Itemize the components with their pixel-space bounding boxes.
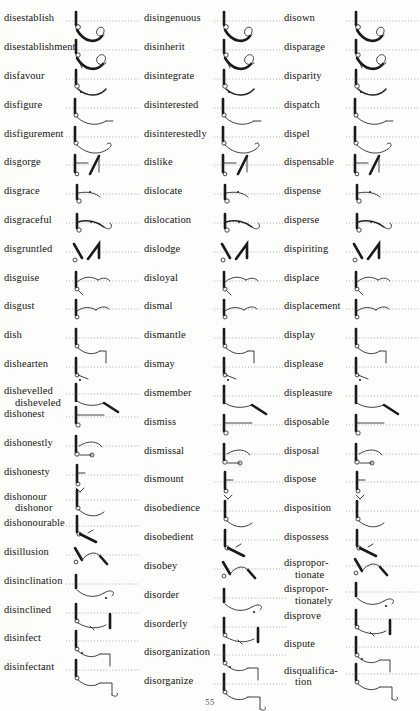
entry-headword: dispel [284, 128, 310, 140]
entry-headword: dispute [284, 638, 315, 650]
entry-headword: disperse [284, 214, 319, 226]
entry-headword: disinclination [4, 575, 63, 587]
entry-headword: dishonesty [4, 466, 50, 478]
entry-alternate-spelling: tionate [284, 569, 329, 581]
entry-headword: disqualifica-tion [284, 665, 338, 688]
entry-headword: dispensable [284, 156, 334, 168]
entry-headword: disloyal [144, 272, 178, 284]
entry-headword: dispense [284, 185, 321, 197]
entry-headword: dismount [144, 473, 184, 485]
entry-headword: dishonestly [4, 437, 53, 449]
entry-alternate-spelling: dishonor [4, 502, 53, 514]
entry-headword: dismiss [144, 416, 176, 428]
entry-alternate-spelling: disheveled [4, 397, 61, 409]
entry-headword: dismay [144, 358, 175, 370]
entry-headword: dislodge [144, 243, 180, 255]
entry-headword: disobedient [144, 531, 194, 543]
entry-headword: displeasure [284, 387, 332, 399]
entry-column-1: disestablishdisestablishmentdisfavourdis… [0, 0, 140, 690]
entry-headword: dispropor-tionately [284, 583, 333, 606]
dictionary-page: disestablishdisestablishmentdisfavourdis… [0, 0, 420, 711]
entry-headword: disguise [4, 272, 39, 284]
entry-headword: disillusion [4, 546, 49, 558]
entry-headword: disinterested [144, 99, 198, 111]
entry-headword: disinfect [4, 632, 41, 644]
entry-headword: disobey [144, 560, 177, 572]
entry-headword: disinclined [4, 604, 51, 616]
shorthand-outline [66, 657, 138, 693]
entry-headword: dispossess [284, 531, 329, 543]
entry-headword: dislocate [144, 185, 182, 197]
entry-headword: disgruntled [4, 243, 52, 255]
entry-headword: dishevelleddisheveled [4, 385, 61, 408]
entry-headword: display [284, 329, 315, 341]
entry-headword: disorder [144, 589, 179, 601]
entry-headword: dislocation [144, 214, 191, 226]
entry-headword: disestablish [4, 12, 54, 24]
entry-headword: disprove [284, 610, 321, 622]
entry-headword: displacement [284, 300, 341, 312]
entry-headword: disintegrate [144, 70, 194, 82]
entry-headword: dislike [144, 156, 173, 168]
entry-headword: disposal [284, 445, 319, 457]
entry-headword: dishonourable [4, 517, 65, 529]
entry-headword: disingenuous [144, 12, 201, 24]
entry-headword: disorderly [144, 618, 188, 630]
entry-headword: dishonourdishonor [4, 491, 53, 514]
entry-headword: dismal [144, 300, 173, 312]
entry-headword: disgust [4, 300, 34, 312]
entry-headword: dishonest [4, 408, 45, 420]
entry-headword: disinherit [144, 41, 185, 53]
entry-column-3: disowndisparagedisparitydispatchdispeldi… [280, 0, 420, 690]
entry-headword: disobedience [144, 502, 200, 514]
entry-headword: dispose [284, 473, 316, 485]
entry-alternate-spelling: tionately [284, 595, 333, 607]
entry-headword: disgrace [4, 185, 40, 197]
entry-headword: dismantle [144, 329, 186, 341]
page-number: 55 [0, 697, 420, 707]
entry-headword: disinfectant [4, 661, 54, 673]
entry-headword: displace [284, 272, 319, 284]
entry-headword: disgorge [4, 156, 41, 168]
entry-headword: disfigure [4, 99, 42, 111]
entry-headword: disfavour [4, 70, 45, 82]
entry-headword: disestablishment [4, 41, 76, 53]
entry-headword: disposition [284, 502, 331, 514]
entry-headword: dishearten [4, 358, 48, 370]
entry-headword: dismember [144, 387, 192, 399]
entry-headword: dispiriting [284, 243, 328, 255]
entry-headword: disparage [284, 41, 325, 53]
entry-headword: disorganize [144, 675, 193, 687]
entry-headword: disfigurement [4, 128, 64, 140]
entry-headword: dispropor-tionate [284, 557, 329, 580]
entry-headword: dismissal [144, 445, 184, 457]
entry-headword: disinterestedly [144, 128, 207, 140]
entry-headword: dish [4, 329, 22, 341]
entry-headword: disgraceful [4, 214, 52, 226]
shorthand-outline [346, 661, 418, 697]
entry-headword: disown [284, 12, 315, 24]
entry-headword: displease [284, 358, 323, 370]
entry-headword: disparity [284, 70, 322, 82]
entry-alternate-spelling: tion [284, 676, 338, 688]
entry-headword: disorganization [144, 646, 210, 658]
entry-headword: disposable [284, 416, 329, 428]
entry-column-2: disingenuousdisinheritdisintegratedisint… [140, 0, 280, 690]
entry-headword: dispatch [284, 99, 320, 111]
